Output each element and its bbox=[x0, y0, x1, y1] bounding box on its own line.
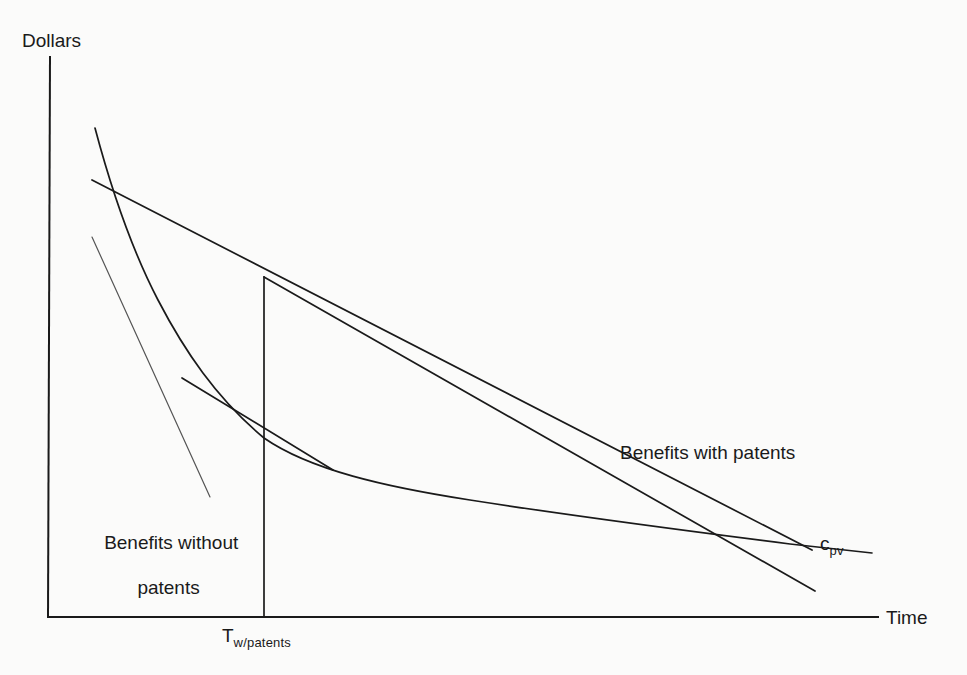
annotation-threshold: Tw/patents bbox=[222, 625, 291, 650]
cpv-line bbox=[92, 180, 812, 550]
annotation-cpv: cpv bbox=[820, 533, 844, 558]
annotation-benefits-without-patents: Benefits without patents bbox=[83, 510, 233, 622]
decay-curve bbox=[95, 128, 872, 553]
benefits-without-patents-line bbox=[92, 237, 210, 497]
benefits-with-patents-line bbox=[264, 277, 815, 591]
tangent-at-threshold-line bbox=[182, 378, 333, 470]
y-axis-title: Dollars bbox=[22, 30, 81, 52]
annotation-benefits-without-patents-line1: Benefits without bbox=[104, 532, 238, 553]
annotation-benefits-with-patents: Benefits with patents bbox=[620, 442, 795, 464]
annotation-cpv-subscript: pv bbox=[830, 543, 844, 558]
annotation-threshold-base: T bbox=[222, 625, 234, 646]
annotation-benefits-without-patents-line2: patents bbox=[137, 577, 199, 598]
y-axis-line bbox=[48, 57, 50, 617]
annotation-threshold-subscript: w/patents bbox=[234, 635, 291, 650]
x-axis-title: Time bbox=[886, 607, 928, 629]
annotation-cpv-base: c bbox=[820, 533, 830, 554]
economics-figure: Dollars Time Benefits with patents Benef… bbox=[0, 0, 967, 675]
